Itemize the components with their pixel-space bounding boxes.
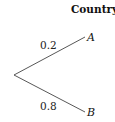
outcome-a-label: A	[86, 31, 95, 44]
branch-b-probability: 0.8	[40, 100, 57, 112]
branch-a-probability: 0.2	[40, 39, 57, 51]
outcome-b-label: B	[86, 106, 95, 119]
probability-tree: 0.2 0.8 A B	[0, 0, 115, 122]
